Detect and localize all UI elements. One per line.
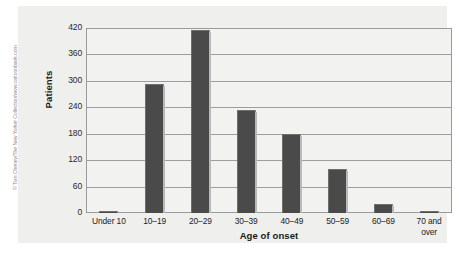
x-axis-title: Age of onset <box>86 230 452 241</box>
y-tick-label: 0 <box>56 207 82 217</box>
x-tick-label: 20–29 <box>178 216 224 227</box>
x-tick-label: 60–69 <box>361 216 407 227</box>
chart-figure-panel: Patients 060120180240300360420 Under 101… <box>18 6 447 243</box>
y-axis-tick-labels: 060120180240300360420 <box>54 28 82 213</box>
plot-area <box>86 28 452 213</box>
y-tick-label: 360 <box>56 48 82 58</box>
gridline <box>87 54 451 55</box>
y-tick-label: 420 <box>56 22 82 32</box>
gridline <box>87 107 451 108</box>
x-tick-label: 40–49 <box>269 216 315 227</box>
gridline <box>87 81 451 82</box>
x-tick-label: Under 10 <box>86 216 132 227</box>
y-tick-label: 240 <box>56 101 82 111</box>
y-tick-label: 300 <box>56 75 82 85</box>
gridline <box>87 160 451 161</box>
x-tick-label: 10–19 <box>132 216 178 227</box>
x-tick-label: 50–59 <box>315 216 361 227</box>
gridline <box>87 187 451 188</box>
x-tick-label: 30–39 <box>223 216 269 227</box>
y-tick-label: 180 <box>56 128 82 138</box>
gridline <box>87 134 451 135</box>
y-tick-label: 120 <box>56 154 82 164</box>
y-tick-label: 60 <box>56 181 82 191</box>
y-axis-title: Patients <box>43 50 54 130</box>
